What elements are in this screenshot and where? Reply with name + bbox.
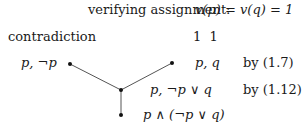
node-dot: [119, 113, 123, 117]
tree-edges: [0, 0, 308, 137]
node-dot: [68, 62, 72, 66]
node-dot: [119, 88, 123, 92]
node-dot: [170, 61, 174, 65]
